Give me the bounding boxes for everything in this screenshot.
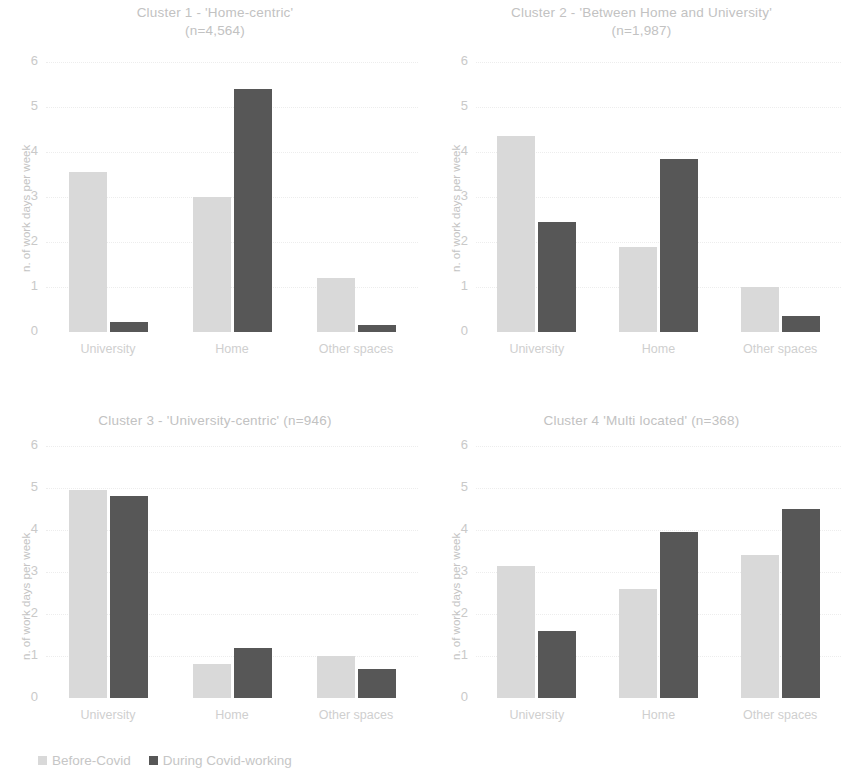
y-axis-label: n. of work days per week [20,145,32,272]
x-axis-ticks: UniversityHomeOther spaces [476,342,841,356]
y-axis-tick-label: 3 [12,563,38,578]
chart-panel-cluster-3: Cluster 3 - 'University-centric' (n=946)… [0,408,430,738]
bar-group [719,446,841,698]
bar[interactable] [497,136,535,332]
y-axis-tick-label: 0 [442,323,468,338]
bar[interactable] [538,222,576,332]
y-axis-tick-label: 6 [442,437,468,452]
bar[interactable] [69,172,107,332]
bar-group [46,62,170,332]
x-axis-tick-label: Home [170,708,294,722]
bar[interactable] [358,325,396,332]
y-axis-tick-label: 4 [12,143,38,158]
plot-area: 6543210 [46,446,418,698]
plot-area: 6543210 [476,446,841,698]
y-axis-tick-label: 2 [12,605,38,620]
x-axis-tick-label: University [476,342,598,356]
x-axis-tick-label: University [476,708,598,722]
chart-title: Cluster 4 'Multi located' (n=368) [430,408,853,430]
plot-area: 6543210 [46,62,418,332]
chart-panel-cluster-4: Cluster 4 'Multi located' (n=368) n. of … [430,408,853,738]
bar[interactable] [193,197,231,332]
x-axis-tick-label: University [46,708,170,722]
legend-item[interactable]: During Covid-working [149,753,292,768]
bar[interactable] [234,89,272,332]
bar[interactable] [234,648,272,698]
bar-group [598,62,720,332]
bar[interactable] [317,656,355,698]
legend-item[interactable]: Before-Covid [38,753,131,768]
bar-group [719,62,841,332]
y-axis-tick-label: 4 [442,521,468,536]
y-axis-tick-label: 5 [12,98,38,113]
bar-group [598,446,720,698]
square-swatch-icon [38,756,47,765]
chart-legend: Before-CovidDuring Covid-working [0,753,853,768]
bar[interactable] [110,322,148,332]
y-axis-tick-label: 1 [442,647,468,662]
bar[interactable] [660,159,698,332]
bar[interactable] [619,589,657,698]
bar[interactable] [193,664,231,698]
bar[interactable] [782,316,820,332]
x-axis-tick-label: Other spaces [294,708,418,722]
bar[interactable] [782,509,820,698]
x-axis-tick-label: Other spaces [719,708,841,722]
bar[interactable] [741,555,779,698]
bar[interactable] [619,247,657,333]
x-axis-tick-label: Home [598,708,720,722]
y-axis-label: n. of work days per week [450,533,462,660]
bar-group [294,62,418,332]
y-axis-tick-label: 4 [12,521,38,536]
y-axis-tick-label: 1 [442,278,468,293]
y-axis-tick-label: 6 [12,437,38,452]
chart-grid: Cluster 1 - 'Home-centric' (n=4,564) n. … [0,0,853,738]
bar[interactable] [317,278,355,332]
bar-container [476,62,841,332]
y-axis-tick-label: 0 [12,323,38,338]
bar[interactable] [69,490,107,698]
y-axis-tick-label: 5 [442,479,468,494]
bar[interactable] [660,532,698,698]
chart-title: Cluster 3 - 'University-centric' (n=946) [0,408,430,430]
y-axis-tick-label: 3 [442,188,468,203]
plot-area: 6543210 [476,62,841,332]
bar[interactable] [497,566,535,698]
bar-group [294,446,418,698]
bar[interactable] [110,496,148,698]
y-axis-tick-label: 2 [442,233,468,248]
bar[interactable] [741,287,779,332]
x-axis-tick-label: Other spaces [294,342,418,356]
y-axis-tick-label: 1 [12,278,38,293]
y-axis-tick-label: 2 [12,233,38,248]
y-axis-tick-label: 1 [12,647,38,662]
chart-title: Cluster 2 - 'Between Home and University… [430,0,853,40]
bar-group [170,62,294,332]
y-axis-label: n. of work days per week [20,533,32,660]
x-axis-ticks: UniversityHomeOther spaces [476,708,841,722]
bar-container [46,62,418,332]
bar-group [170,446,294,698]
y-axis-tick-label: 5 [12,479,38,494]
bar-group [46,446,170,698]
y-axis-tick-label: 2 [442,605,468,620]
x-axis-ticks: UniversityHomeOther spaces [46,342,418,356]
chart-title: Cluster 1 - 'Home-centric' (n=4,564) [0,0,430,40]
chart-panel-cluster-1: Cluster 1 - 'Home-centric' (n=4,564) n. … [0,0,430,408]
legend-label: During Covid-working [163,753,292,768]
x-axis-tick-label: Other spaces [719,342,841,356]
chart-panel-cluster-2: Cluster 2 - 'Between Home and University… [430,0,853,408]
bar-container [46,446,418,698]
bar[interactable] [358,669,396,698]
y-axis-tick-label: 5 [442,98,468,113]
bar-container [476,446,841,698]
y-axis-label: n. of work days per week [450,145,462,272]
bar-group [476,446,598,698]
legend-label: Before-Covid [52,753,131,768]
x-axis-tick-label: Home [170,342,294,356]
x-axis-ticks: UniversityHomeOther spaces [46,708,418,722]
y-axis-tick-label: 3 [442,563,468,578]
y-axis-tick-label: 4 [442,143,468,158]
bar[interactable] [538,631,576,698]
y-axis-tick-label: 0 [12,689,38,704]
